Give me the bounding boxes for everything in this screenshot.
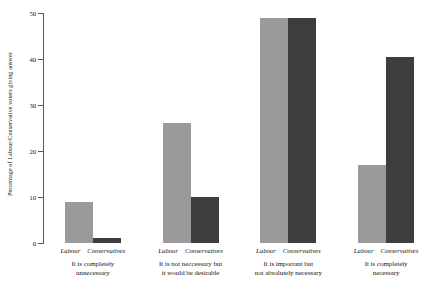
bar-conservatives-group-4: [386, 57, 414, 243]
y-axis-tick: [38, 197, 43, 198]
group-caption: It is not neccessary butit would be desi…: [142, 259, 240, 277]
series-labels: LabourConservatives: [337, 247, 435, 254]
series-label-labour: Labour: [354, 247, 374, 254]
series-label-labour: Labour: [158, 247, 178, 254]
bar-conservatives-group-2: [191, 197, 219, 243]
y-axis-tick-label: 50: [0, 10, 36, 17]
group-caption-line: necessary: [337, 268, 435, 277]
y-axis-tick: [38, 13, 43, 14]
series-label-conservatives: Conservatives: [185, 247, 223, 254]
group-caption: It is important butnot absolutely necess…: [240, 259, 338, 277]
bar-chart: Percentage of Labour/Conservative voters…: [0, 0, 439, 292]
x-group-3: LabourConservativesIt is important butno…: [240, 247, 338, 277]
y-axis-tick-label: 20: [0, 148, 36, 155]
series-labels: LabourConservatives: [44, 247, 142, 254]
plot-area: [44, 13, 435, 243]
group-caption-line: unnecessary: [44, 268, 142, 277]
group-caption-line: It is not neccessary but: [142, 259, 240, 268]
y-axis-tick: [38, 151, 43, 152]
bar-labour-group-4: [358, 165, 386, 243]
bar-labour-group-2: [163, 123, 191, 243]
group-caption-line: it would be desirable: [142, 268, 240, 277]
y-axis-tick: [38, 243, 43, 244]
bar-conservatives-group-3: [288, 18, 316, 243]
x-group-2: LabourConservativesIt is not neccessary …: [142, 247, 240, 277]
series-label-conservatives: Conservatives: [381, 247, 419, 254]
y-axis-title: Percentage of Labour/Conservative voters…: [0, 0, 20, 248]
group-caption: It is completelynecessary: [337, 259, 435, 277]
bar-labour-group-3: [260, 18, 288, 243]
series-labels: LabourConservatives: [142, 247, 240, 254]
group-caption-line: not absolutely necessary: [240, 268, 338, 277]
y-axis-tick-label: 10: [0, 194, 36, 201]
group-caption-line: It is important but: [240, 259, 338, 268]
series-label-conservatives: Conservatives: [87, 247, 125, 254]
series-label-conservatives: Conservatives: [283, 247, 321, 254]
y-axis-tick-label: 40: [0, 56, 36, 63]
y-axis-title-text: Percentage of Labour/Conservative voters…: [7, 52, 13, 196]
series-labels: LabourConservatives: [240, 247, 338, 254]
x-group-4: LabourConservativesIt is completelyneces…: [337, 247, 435, 277]
series-label-labour: Labour: [256, 247, 276, 254]
bar-labour-group-1: [65, 202, 93, 243]
group-caption-line: It is completely: [44, 259, 142, 268]
y-axis-tick: [38, 105, 43, 106]
x-group-1: LabourConservativesIt is completelyunnec…: [44, 247, 142, 277]
y-axis-tick: [38, 59, 43, 60]
y-axis-tick-label: 0: [0, 240, 36, 247]
group-caption-line: It is completely: [337, 259, 435, 268]
y-axis-tick-label: 30: [0, 102, 36, 109]
bar-conservatives-group-1: [93, 238, 121, 243]
group-caption: It is completelyunnecessary: [44, 259, 142, 277]
series-label-labour: Labour: [61, 247, 81, 254]
